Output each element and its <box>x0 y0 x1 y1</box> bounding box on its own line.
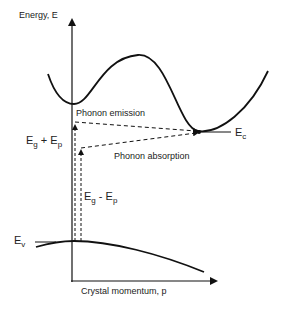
conduction-band-curve <box>48 55 268 131</box>
eg-minus-ep-label: Eg - Ep <box>84 191 117 205</box>
phonon-absorption-arrow <box>81 133 196 148</box>
eg-plus-ep-label: Eg + Ep <box>26 135 62 149</box>
ec-label: Ec <box>235 127 246 141</box>
energy-axis-label: Energy, E <box>19 11 58 20</box>
phonon-emission-label: Phonon emission <box>76 109 145 118</box>
momentum-axis-label: Crystal momentum, p <box>81 287 167 296</box>
ev-label: Ev <box>14 235 25 249</box>
phonon-absorption-label: Phonon absorption <box>114 152 190 161</box>
phonon-emission-arrow <box>75 122 196 131</box>
valence-band-curve <box>36 241 204 272</box>
